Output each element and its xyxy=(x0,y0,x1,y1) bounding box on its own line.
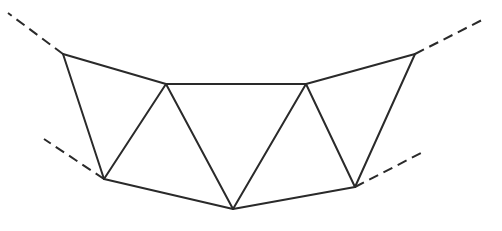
continuation-from-E xyxy=(44,139,104,179)
member-EB xyxy=(104,84,166,179)
member-AE xyxy=(63,54,104,179)
member-BF xyxy=(166,84,233,209)
member-FG xyxy=(233,187,355,209)
continuation-from-A xyxy=(8,13,63,54)
member-CD xyxy=(306,54,415,84)
member-FC xyxy=(233,84,306,209)
continuation-from-G xyxy=(355,152,423,187)
member-GD xyxy=(355,54,415,187)
member-AB xyxy=(63,54,166,84)
member-EF xyxy=(104,179,233,209)
truss-members xyxy=(63,54,415,209)
truss-diagram xyxy=(0,0,502,231)
continuation-from-D xyxy=(415,20,482,54)
member-CG xyxy=(306,84,355,187)
